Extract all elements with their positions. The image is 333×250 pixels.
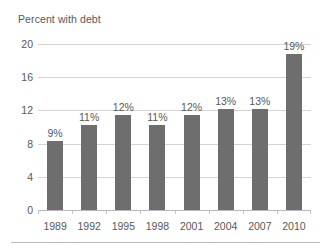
bar-group: 9% [38,44,72,210]
bar [149,125,165,210]
x-axis-tick-label: 2004 [209,220,243,232]
bar-group: 19% [277,44,311,210]
x-axis-tick-mark [209,210,210,214]
x-axis-tick-label: 1989 [38,220,72,232]
x-axis-tick-label: 2001 [175,220,209,232]
bar [252,109,268,210]
x-axis-tick-label: 2010 [277,220,311,232]
bar-group: 11% [140,44,174,210]
x-axis-tick-mark [106,210,107,214]
x-axis-tick-mark [310,210,311,214]
bar [81,125,97,210]
bar-group: 13% [209,44,243,210]
x-axis-tick-mark [175,210,176,214]
y-axis-tick-label: 4 [27,171,33,183]
bar [47,141,63,210]
x-axis-tick-label: 2007 [243,220,277,232]
bar-chart-figure: Percent with debt 048121620 9%11%12%11%1… [0,0,333,250]
y-axis-tick-label: 16 [21,71,33,83]
x-axis: 19891992199519982001200420072010 [38,210,311,240]
bar [184,115,200,210]
bar [286,54,302,210]
footer-divider [11,242,320,243]
x-axis-tick-mark [140,210,141,214]
x-axis-tick-mark [277,210,278,214]
bar-value-label: 12% [113,101,134,113]
bar-value-label: 11% [79,111,99,123]
bar-group: 12% [106,44,140,210]
bar-value-label: 11% [147,111,167,123]
y-axis-tick-label: 12 [21,104,33,116]
y-axis: 048121620 [0,0,38,250]
x-axis-tick-label: 1998 [140,220,174,232]
bar-group: 12% [175,44,209,210]
x-axis-tick-mark [38,210,39,214]
x-axis-tick-label: 1992 [72,220,106,232]
bar-group: 13% [243,44,277,210]
bar-value-label: 12% [181,101,202,113]
bar-value-label: 13% [249,95,270,107]
bar-value-label: 9% [47,127,62,139]
y-axis-tick-label: 20 [21,38,33,50]
bar-value-label: 19% [283,40,304,52]
x-axis-tick-mark [72,210,73,214]
plot-area: 9%11%12%11%12%13%13%19% [38,44,311,210]
bar [115,115,131,210]
bar-group: 11% [72,44,106,210]
bar-value-label: 13% [215,95,236,107]
y-axis-tick-label: 8 [27,138,33,150]
x-axis-tick-mark [243,210,244,214]
y-axis-tick-label: 0 [27,204,33,216]
x-axis-tick-label: 1995 [106,220,140,232]
bar [218,109,234,210]
